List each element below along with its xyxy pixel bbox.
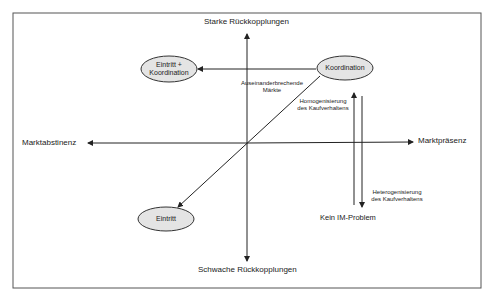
annotation-homog-line1: Homogenisierung	[292, 98, 354, 105]
annotation-heterog-line1: Heterogenisierung	[366, 189, 428, 196]
node-entry-coordination: Eintritt +Koordination	[141, 56, 197, 82]
node-entry: Eintritt	[138, 207, 194, 231]
annotation-no-im-problem: Kein IM-Problem	[320, 214, 376, 222]
axis-label-left: Marktabstinenz	[22, 139, 76, 147]
annotation-breaking-line1: Auseinanderbrechende	[234, 80, 310, 87]
annotation-homogenization: Homogenisierung des Kaufverhaltens	[292, 98, 354, 112]
axis-label-right: Marktpräsenz	[418, 137, 466, 145]
node-coordination: Koordination	[317, 56, 373, 80]
diagram-canvas	[0, 0, 493, 302]
axis-label-bottom: Schwache Rückkopplungen	[198, 266, 297, 274]
annotation-breaking-markets: Auseinanderbrechende Märkte	[234, 80, 310, 94]
axis-label-top: Starke Rückkopplungen	[204, 18, 289, 26]
node-entry-coordination-line1: Eintritt +	[149, 61, 188, 69]
annotation-breaking-line2: Märkte	[234, 87, 310, 94]
annotation-heterog-line2: des Kaufverhaltens	[366, 196, 428, 203]
annotation-heterogenization: Heterogenisierung des Kaufverhaltens	[366, 189, 428, 203]
annotation-homog-line2: des Kaufverhaltens	[292, 105, 354, 112]
node-entry-coordination-line2: Koordination	[149, 69, 188, 77]
